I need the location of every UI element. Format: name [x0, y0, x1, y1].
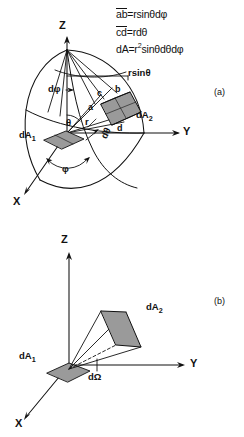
equation-ab-rest: =rsinθdφ: [127, 8, 167, 20]
corner-c-label: c: [97, 89, 102, 98]
dphi-label: dφ: [48, 84, 61, 94]
phi-arc-arrow-right: [84, 157, 90, 164]
corner-b-label: b: [115, 85, 121, 94]
panel-a-tag: (a): [214, 88, 225, 97]
dA1-patch: [44, 131, 84, 149]
dOmega-label: dΩ: [88, 372, 101, 382]
panel-b-y-axis-label: Y: [190, 358, 197, 369]
r-label: r: [85, 117, 89, 127]
theta-label: θ: [66, 118, 71, 128]
equation-dA-pre: dA=r: [116, 43, 138, 55]
panel-b-dA1-label: dA1: [19, 351, 36, 363]
equation-cd-overline: cd: [116, 26, 127, 38]
panel-b-dA1-patch: [47, 363, 90, 382]
corner-d-label: d: [117, 124, 123, 133]
panel-b-z-axis-label: Z: [61, 234, 68, 245]
panel-b-dA1-label-text: dA: [19, 350, 32, 361]
equation-dA-post: sinθdθdφ: [141, 43, 183, 55]
dA2-label-sub: 2: [149, 114, 153, 123]
phi-label: φ: [62, 164, 69, 174]
figure-canvas: ab=rsinθdφ cd=rdθ dA=r2sinθdθdφ (a) Z Y …: [0, 0, 244, 437]
dA2-label-text: dA: [136, 109, 149, 120]
r-leader: [88, 119, 96, 127]
panel-b-dA1-label-sub: 1: [32, 355, 36, 364]
cone-edge-right3: [67, 50, 117, 93]
panel-a-x-axis-label: X: [13, 196, 20, 207]
panel-b-dA2-label-sub: 2: [159, 306, 163, 315]
rsintheta-label: rsinθ: [128, 68, 151, 78]
dA1-label-text: dA: [19, 129, 32, 140]
dA1-label: dA1: [19, 130, 36, 142]
panel-b-dA2-label: dA2: [146, 302, 163, 314]
dA2-label: dA2: [136, 110, 153, 122]
equation-cd: cd=rdθ: [116, 26, 147, 38]
corner-a-label: a: [88, 103, 93, 112]
panel-b-dA2-patch: [101, 311, 141, 347]
dA1-label-sub: 1: [32, 134, 36, 143]
equation-ab: ab=rsinθdφ: [116, 8, 167, 20]
panel-b-tag: (b): [214, 297, 225, 306]
equation-dA: dA=r2sinθdθdφ: [116, 42, 183, 54]
equation-cd-rest: =rdθ: [127, 26, 148, 38]
panel-b-dA2-label-text: dA: [146, 301, 159, 312]
equation-ab-overline: ab: [116, 8, 127, 20]
panel-a-z-axis-label: Z: [59, 20, 66, 31]
panel-a-y-axis-label: Y: [183, 126, 190, 137]
panel-b-x-axis-label: X: [15, 418, 22, 429]
panel-b-graphics: [0, 225, 244, 437]
